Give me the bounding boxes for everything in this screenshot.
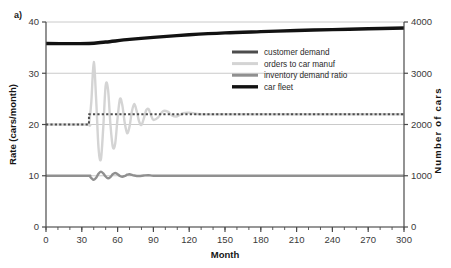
x-tick-label-120: 120 [181,234,197,245]
series-line-orders-to-car-manuf [46,62,404,160]
x-tick-label-270: 270 [360,234,376,245]
y-axis-left-title: Rate (cars/month) [7,84,18,165]
y-right-tick-label-1000: 1000 [411,170,432,181]
y-right-tick-label-4000: 4000 [411,16,432,27]
y-left-tick-label-10: 10 [28,170,39,181]
y-axis-right-title: Number of cars [432,87,443,174]
series-line-car-fleet [46,28,404,44]
y-right-tick-label-0: 0 [411,221,416,232]
x-tick-label-150: 150 [217,234,233,245]
y-left-tick-label-0: 0 [34,221,39,232]
x-axis-title: Month [211,249,240,260]
x-tick-label-60: 60 [112,234,123,245]
x-tick-label-300: 300 [396,234,412,245]
y-left-tick-label-20: 20 [28,119,39,130]
legend-item-orders-to-car-manuf[interactable]: orders to car manuf [232,60,336,69]
legend-item-customer-demand[interactable]: customer demand [232,48,330,57]
x-tick-label-0: 0 [43,234,48,245]
series-line-customer-demand [46,114,404,124]
legend-item-car-fleet[interactable]: car fleet [232,83,294,92]
x-tick-label-30: 30 [77,234,88,245]
x-tick-label-90: 90 [148,234,159,245]
y-right-tick-label-3000: 3000 [411,68,432,79]
legend-label-1: orders to car manuf [264,60,336,69]
legend-label-2: inventory demand ratio [264,71,348,80]
figure-panel: a) 0306090120150180210240270300010203040… [0,0,451,268]
x-tick-label-210: 210 [289,234,305,245]
legend-label-0: customer demand [264,48,330,57]
x-tick-label-240: 240 [324,234,340,245]
chart-canvas: 0306090120150180210240270300010203040010… [0,0,451,268]
y-left-tick-label-40: 40 [28,16,39,27]
y-left-tick-label-30: 30 [28,68,39,79]
legend-label-3: car fleet [264,83,294,92]
y-right-tick-label-2000: 2000 [411,119,432,130]
legend-item-inventory-demand-ratio[interactable]: inventory demand ratio [232,71,348,80]
x-tick-label-180: 180 [253,234,269,245]
